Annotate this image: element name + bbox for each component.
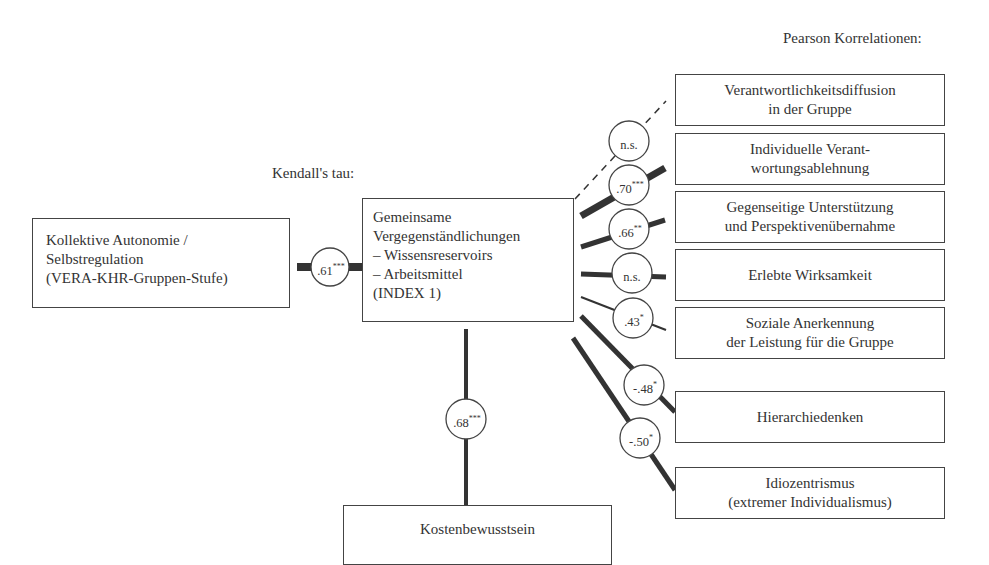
target-node-line: Hierarchiedenken xyxy=(757,408,864,427)
target-node-1: Verantwortlichkeitsdiffusion in der Grup… xyxy=(675,74,945,126)
center-node-line: Vergegenständlichungen xyxy=(373,227,563,246)
target-node-5: Soziale Anerkennung der Leistung für die… xyxy=(675,307,945,359)
target-node-line: und Perspektivenübernahme xyxy=(725,217,895,236)
coef-target-6: -.48* xyxy=(626,366,664,404)
source-node: Kollektive Autonomie / Selbstregulation … xyxy=(32,218,290,308)
coef-value: n.s. xyxy=(620,138,637,152)
target-node-line: der Leistung für die Gruppe xyxy=(726,333,893,352)
bottom-node: Kostenbewusstsein xyxy=(343,505,612,565)
target-node-line: (extremer Individualismus) xyxy=(728,493,892,512)
target-node-line: wortungsablehnung xyxy=(751,159,869,178)
coef-value: -.50 xyxy=(629,435,649,449)
coef-sig: *** xyxy=(632,180,644,189)
target-node-2: Individuelle Verant- wortungsablehnung xyxy=(675,133,945,185)
coef-target-5: .43* xyxy=(615,299,653,337)
target-node-3: Gegenseitige Unterstützung und Perspekti… xyxy=(675,191,945,243)
kendall-header: Kendall's tau: xyxy=(272,165,354,182)
center-node-line: – Wissensreservoirs xyxy=(373,246,563,265)
coef-target-4: n.s. xyxy=(613,254,651,292)
coef-target-2: .70*** xyxy=(611,166,649,204)
coef-value: .66 xyxy=(618,226,634,240)
center-node-line: – Arbeitsmittel xyxy=(373,265,563,284)
coef-sig: * xyxy=(649,433,653,442)
coef-value: .61 xyxy=(317,264,333,278)
target-node-7: Idiozentrismus (extremer Individualismus… xyxy=(675,467,945,519)
coef-sig: ** xyxy=(634,224,642,233)
target-node-line: Individuelle Verant- xyxy=(750,140,870,159)
coef-value: n.s. xyxy=(623,270,640,284)
pearson-header: Pearson Korrelationen: xyxy=(783,30,922,47)
coef-target-1: n.s. xyxy=(610,122,648,160)
coef-target-7: -.50* xyxy=(622,419,660,457)
center-node-line: (INDEX 1) xyxy=(373,284,563,303)
coef-sig: * xyxy=(640,313,644,322)
target-node-6: Hierarchiedenken xyxy=(675,391,945,443)
target-node-line: in der Gruppe xyxy=(768,100,851,119)
center-node: Gemeinsame Vergegenständlichungen – Wiss… xyxy=(362,198,574,322)
target-node-4: Erlebte Wirksamkeit xyxy=(675,249,945,301)
coef-value: -.48 xyxy=(633,382,653,396)
coef-sig: *** xyxy=(469,414,481,423)
coef-value: .68 xyxy=(453,416,469,430)
coef-sig: *** xyxy=(333,262,345,271)
coef-value: .43 xyxy=(624,315,640,329)
source-node-line: Selbstregulation xyxy=(46,250,276,269)
coef-sig: * xyxy=(653,380,657,389)
coef-target-3: .66** xyxy=(611,210,649,248)
target-node-line: Gegenseitige Unterstützung xyxy=(726,198,893,217)
coef-source-center: .61*** xyxy=(312,248,350,286)
target-node-line: Idiozentrismus xyxy=(765,474,854,493)
target-node-line: Soziale Anerkennung xyxy=(746,314,875,333)
bottom-node-label: Kostenbewusstsein xyxy=(420,520,535,539)
coef-value: .70 xyxy=(616,182,632,196)
center-node-line: Gemeinsame xyxy=(373,208,563,227)
coef-center-bottom: .68*** xyxy=(448,400,486,438)
source-node-line: (VERA-KHR-Gruppen-Stufe) xyxy=(46,269,276,288)
target-node-line: Erlebte Wirksamkeit xyxy=(748,266,872,285)
target-node-line: Verantwortlichkeitsdiffusion xyxy=(724,81,895,100)
source-node-line: Kollektive Autonomie / xyxy=(46,231,276,250)
